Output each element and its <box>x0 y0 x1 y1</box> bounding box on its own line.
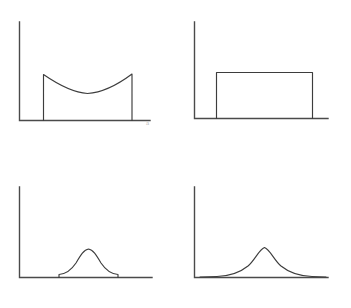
panel-a: a <box>0 0 176 154</box>
panel-d-axes <box>195 187 329 278</box>
panel-b: b <box>176 0 351 154</box>
panel-b-axes <box>195 22 329 119</box>
panel-b-plot <box>176 0 351 154</box>
distribution-shapes-figure: a b c d <box>0 0 351 308</box>
panel-c-axes <box>20 187 153 278</box>
panel-c: c <box>0 154 176 308</box>
panel-grid: a b c d <box>0 0 351 308</box>
panel-d-plot <box>176 154 351 308</box>
panel-c-curve <box>59 249 118 278</box>
panel-d: d <box>176 154 351 308</box>
panel-b-curve <box>217 73 313 119</box>
panel-a-plot <box>0 0 176 154</box>
panel-d-curve <box>200 248 326 278</box>
panel-a-axes <box>20 22 151 121</box>
panel-c-plot <box>0 154 176 308</box>
panel-a-label: a <box>146 120 149 127</box>
panel-a-curve <box>44 74 133 121</box>
